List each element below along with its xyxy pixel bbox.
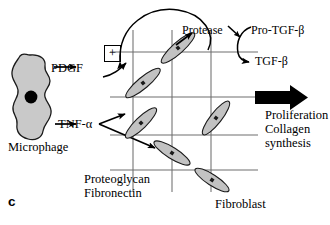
label-proliferation: Proliferation <box>265 108 328 122</box>
label-output: Proliferation Collagen synthesis <box>265 108 328 150</box>
matrix-grid <box>110 30 258 192</box>
label-macrophage: Microphage <box>8 140 68 154</box>
label-fibronectin: Fibronectin <box>84 186 150 200</box>
arrow-protease-to-protgf <box>228 26 240 37</box>
figure-panel-c: PDGF TNF-α Microphage + Protease Pro-TGF… <box>0 0 330 225</box>
label-matrix-composition: Proteoglycan Fibronectin <box>84 172 150 200</box>
positive-feedback-box: + <box>104 45 121 62</box>
label-pro-tgf-beta: Pro-TGF-β <box>251 24 304 37</box>
label-protease: Protease <box>182 24 223 37</box>
label-tgf-beta: TGF-β <box>255 55 288 68</box>
macrophage-cell <box>12 54 51 140</box>
label-fibroblast: Fibroblast <box>215 197 266 211</box>
arrow-pdgf-to-fibroblast <box>103 63 126 77</box>
panel-label: c <box>8 194 16 209</box>
block-arrow-output <box>255 85 308 110</box>
label-tnf-alpha: TNF-α <box>58 117 92 131</box>
label-proteoglycan: Proteoglycan <box>84 172 150 186</box>
arrow-tnf-to-fibroblast-upper <box>99 114 125 124</box>
label-synthesis: synthesis <box>265 136 328 150</box>
macrophage-nucleus <box>25 91 38 104</box>
label-collagen: Collagen <box>265 122 328 136</box>
label-pdgf: PDGF <box>51 61 83 75</box>
plus-symbol: + <box>105 45 120 61</box>
arrow-protgf-to-tgf <box>238 27 251 62</box>
